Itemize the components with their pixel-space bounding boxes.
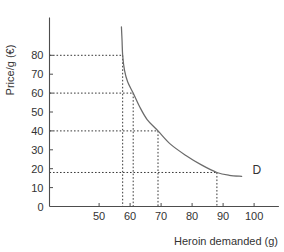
y-tick-label: 20 <box>31 163 43 175</box>
y-tick-label: 30 <box>31 144 43 156</box>
x-tick-label: 50 <box>93 210 105 222</box>
y-tick-label: 50 <box>31 106 43 118</box>
y-tick-label: 0 <box>37 201 43 213</box>
y-tick-label: 10 <box>31 182 43 194</box>
y-tick-label: 80 <box>31 49 43 61</box>
x-tick-label: 90 <box>217 210 229 222</box>
x-tick-label: 80 <box>186 210 198 222</box>
y-tick-label: 60 <box>31 87 43 99</box>
demand-curve-chart: 5060708090100 01020304050607080 D Heroin… <box>0 0 284 252</box>
y-axis-ticks: 01020304050607080 <box>31 49 53 212</box>
demand-curve-label: D <box>253 163 262 177</box>
x-axis-ticks: 5060708090100 <box>93 203 263 222</box>
y-tick-label: 70 <box>31 68 43 80</box>
y-tick-label: 40 <box>31 125 43 137</box>
x-tick-label: 70 <box>155 210 167 222</box>
y-axis-title: Price/g (€) <box>4 45 16 96</box>
x-axis-title: Heroin demanded (g) <box>174 235 278 247</box>
demand-curve-line <box>121 27 241 176</box>
x-tick-label: 100 <box>245 210 263 222</box>
guide-lines-group <box>50 55 217 206</box>
x-tick-label: 60 <box>124 210 136 222</box>
chart-canvas: 5060708090100 01020304050607080 D Heroin… <box>0 0 284 252</box>
